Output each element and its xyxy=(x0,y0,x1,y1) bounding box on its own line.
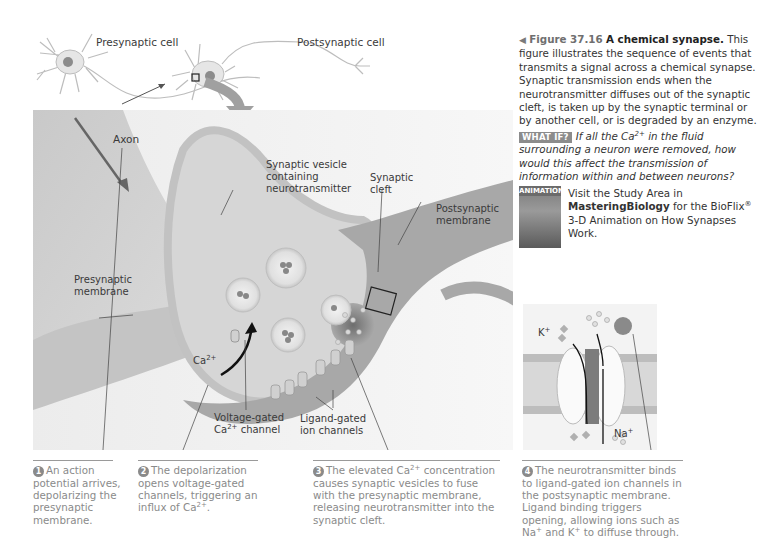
figure-caption: ◀ Figure 37.16 A chemical synapse. This … xyxy=(519,33,759,128)
animation-badge: ANIMATION xyxy=(519,186,561,196)
voltage-gated-channel xyxy=(231,330,239,342)
label-postsynaptic-cell: Postsynaptic cell xyxy=(297,36,385,48)
label-synaptic-cleft: Synaptic cleft xyxy=(370,172,413,196)
animation-thumbnail[interactable]: ANIMATION xyxy=(519,186,561,248)
figure-pointer-icon: ◀ xyxy=(519,35,526,45)
label-k-ion: K+ xyxy=(538,327,550,339)
label-ligand-gated-channels: Ligand-gated ion channels xyxy=(300,413,366,437)
mastering-biology-link[interactable]: MasteringBiology xyxy=(568,200,670,212)
animation-text: Visit the Study Area in MasteringBiology… xyxy=(568,187,758,241)
step-4: 4The neurotransmitter binds to ligand-ga… xyxy=(522,464,687,538)
label-axon: Axon xyxy=(113,133,139,145)
figure-caption-text: This figure illustrates the sequence of … xyxy=(519,33,757,126)
label-ca-ion: Ca2+ xyxy=(193,355,216,367)
step-1-rule xyxy=(33,460,113,461)
label-presynaptic-cell: Presynaptic cell xyxy=(96,36,178,48)
what-if-badge: WHAT IF? xyxy=(519,132,572,143)
label-synaptic-vesicle: Synaptic vesicle containing neurotransmi… xyxy=(266,159,351,195)
what-if-question: WHAT IF?If all the Ca2+ in the fluid sur… xyxy=(519,130,759,184)
step-2-rule xyxy=(138,460,258,461)
step-1-number: 1 xyxy=(33,466,44,477)
label-presynaptic-membrane: Presynaptic membrane xyxy=(74,274,132,298)
ion-channel-inset xyxy=(523,304,657,450)
label-voltage-gated-channel: Voltage-gatedCa2+ channel xyxy=(214,412,284,436)
presynaptic-nucleus xyxy=(63,57,73,67)
neuron-overview xyxy=(0,0,520,120)
step-3: 3The elevated Ca2+ concentration causes … xyxy=(313,464,503,526)
step-4-rule xyxy=(522,460,683,461)
figure-title: A chemical synapse. xyxy=(606,33,724,45)
label-postsynaptic-membrane: Postsynaptic membrane xyxy=(436,203,499,227)
step-4-number: 4 xyxy=(522,466,533,477)
label-na-ion: Na+ xyxy=(614,428,633,440)
figure-number: Figure 37.16 xyxy=(529,33,602,45)
channel-subunit-left xyxy=(557,348,589,424)
step-3-rule xyxy=(313,460,500,461)
step-1: 1An action potential arrives, depolarizi… xyxy=(33,464,123,526)
step-3-number: 3 xyxy=(313,466,324,477)
ligand-molecule xyxy=(614,317,632,335)
step-2-number: 2 xyxy=(138,466,149,477)
step-2: 2The depolarization opens voltage-gated … xyxy=(138,464,266,514)
